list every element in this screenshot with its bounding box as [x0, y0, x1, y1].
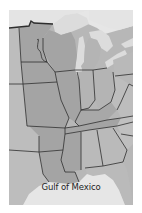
us-map — [9, 10, 133, 205]
canada-area — [89, 10, 133, 30]
map-frame — [9, 10, 133, 205]
gulf-of-mexico-label: Gulf of Mexico — [0, 182, 142, 192]
mississippi — [61, 132, 81, 172]
